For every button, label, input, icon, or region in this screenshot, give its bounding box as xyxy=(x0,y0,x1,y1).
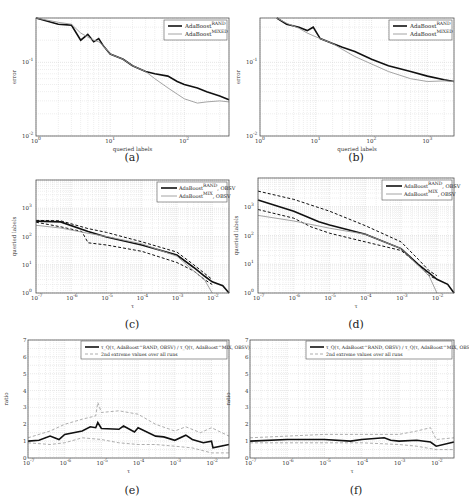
svg-text:5: 5 xyxy=(245,371,249,377)
svg-text:2nd extreme values over all ru: 2nd extreme values over all runs xyxy=(326,352,403,357)
series-line xyxy=(250,428,454,440)
x-axis-label: τ xyxy=(350,468,353,474)
caption-f: (f) xyxy=(336,484,376,497)
svg-text:1: 1 xyxy=(245,438,249,444)
legend: τ_Q(τ, AdaBoost^RAND, OBSV) / τ_Q(τ, Ada… xyxy=(306,341,469,359)
caption-d: (d) xyxy=(336,318,376,331)
svg-text:2: 2 xyxy=(245,421,249,427)
svg-text:3: 3 xyxy=(245,404,249,410)
series-line xyxy=(250,438,454,446)
svg-text:10-3: 10-3 xyxy=(394,458,406,466)
caption-c: (c) xyxy=(112,318,152,331)
series-line xyxy=(250,443,454,450)
svg-text:10-2: 10-2 xyxy=(431,458,443,466)
caption-b: (b) xyxy=(336,151,376,164)
svg-text:10-4: 10-4 xyxy=(357,458,369,466)
svg-text:0: 0 xyxy=(245,455,249,461)
caption-e: (e) xyxy=(112,484,152,497)
caption-a: (a) xyxy=(112,151,152,164)
svg-text:10-6: 10-6 xyxy=(282,458,294,466)
svg-text:10-5: 10-5 xyxy=(319,458,331,466)
svg-text:7: 7 xyxy=(245,337,249,343)
svg-text:4: 4 xyxy=(245,388,249,394)
chart-f: 10-710-610-510-410-310-201234567τratioτ_… xyxy=(0,0,469,503)
svg-text:6: 6 xyxy=(245,354,249,360)
y-axis-label: ratio xyxy=(225,392,231,406)
